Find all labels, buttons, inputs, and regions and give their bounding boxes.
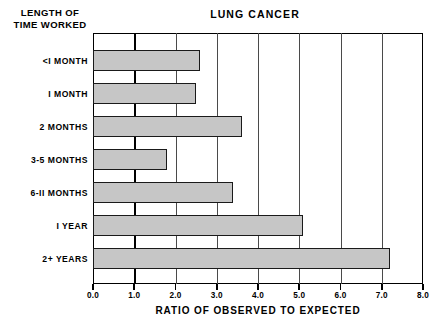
y-axis-tick-label: 6-II MONTHS bbox=[2, 188, 88, 198]
x-axis-tick-label: 5.0 bbox=[284, 291, 314, 300]
y-axis-header-line-2: TIME WORKED bbox=[10, 19, 90, 31]
y-axis-tick-label: <I MONTH bbox=[2, 56, 88, 66]
x-axis-tick-label: 2.0 bbox=[161, 291, 191, 300]
gridline bbox=[341, 33, 342, 284]
y-axis-tick-label: 2+ YEARS bbox=[2, 254, 88, 264]
x-axis-tick-label: 3.0 bbox=[202, 291, 232, 300]
x-axis-tick bbox=[422, 284, 424, 290]
x-axis-tick-label: 6.0 bbox=[326, 291, 356, 300]
bar bbox=[93, 215, 303, 236]
bar bbox=[93, 116, 242, 137]
x-axis-tick-label: 8.0 bbox=[408, 291, 438, 300]
y-axis-tick-label: 3-5 MONTHS bbox=[2, 155, 88, 165]
x-axis-tick bbox=[298, 284, 300, 290]
x-axis-tick-label: 7.0 bbox=[367, 291, 397, 300]
y-axis-tick-label: 2 MONTHS bbox=[2, 122, 88, 132]
gridline bbox=[258, 33, 259, 284]
x-axis-tick-label: 4.0 bbox=[243, 291, 273, 300]
bar bbox=[93, 83, 196, 104]
x-axis-tick bbox=[92, 284, 94, 290]
gridline bbox=[217, 33, 218, 284]
y-axis-tick-label: I MONTH bbox=[2, 89, 88, 99]
y-axis-header: LENGTH OF TIME WORKED bbox=[10, 7, 90, 31]
bar bbox=[93, 182, 233, 203]
y-axis-tick-label: I YEAR bbox=[2, 221, 88, 231]
x-axis-tick bbox=[175, 284, 177, 290]
x-axis-tick bbox=[381, 284, 383, 290]
x-axis-tick bbox=[340, 284, 342, 290]
x-axis-tick-label: 0.0 bbox=[78, 291, 108, 300]
chart-title: LUNG CANCER bbox=[175, 8, 335, 20]
gridline bbox=[382, 33, 383, 284]
x-axis-title: RATIO OF OBSERVED TO EXPECTED bbox=[93, 305, 423, 316]
x-axis-tick bbox=[257, 284, 259, 290]
bar bbox=[93, 149, 167, 170]
x-axis-tick-label: 1.0 bbox=[119, 291, 149, 300]
bar bbox=[93, 50, 200, 71]
bar bbox=[93, 248, 390, 269]
y-axis-header-line-1: LENGTH OF bbox=[10, 7, 90, 19]
x-axis-tick bbox=[216, 284, 218, 290]
gridline bbox=[299, 33, 300, 284]
bar-chart: LENGTH OF TIME WORKED LUNG CANCER <I MON… bbox=[0, 0, 443, 324]
x-axis-tick bbox=[133, 284, 135, 290]
